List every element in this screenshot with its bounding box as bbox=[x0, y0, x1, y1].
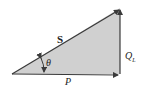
label-q: QL bbox=[125, 51, 136, 63]
label-q-sub: L bbox=[132, 57, 135, 63]
label-s: S bbox=[57, 34, 63, 45]
power-triangle-diagram: S QL P θ bbox=[0, 0, 142, 90]
label-p: P bbox=[65, 77, 71, 87]
p-vector-arrow bbox=[12, 74, 118, 75]
label-theta: θ bbox=[46, 58, 51, 68]
